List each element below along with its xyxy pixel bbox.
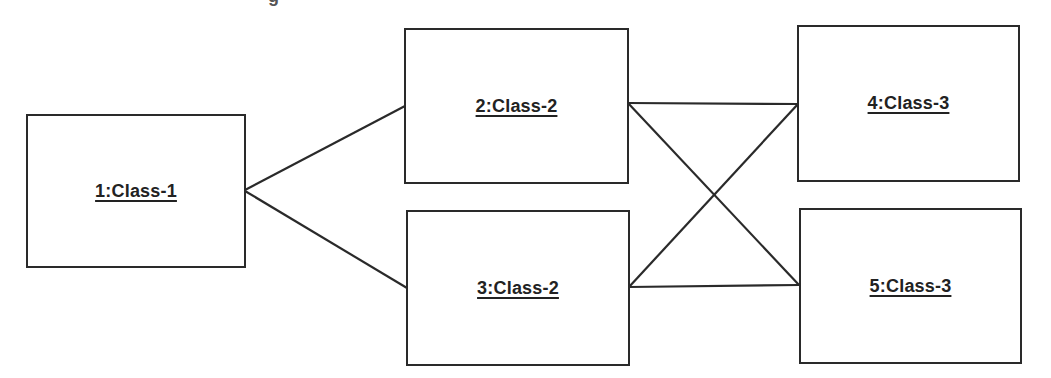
node-2-class-2: 2:Class-2 — [404, 28, 629, 184]
edge-1-to-3 — [245, 191, 407, 288]
node-4-class-3: 4:Class-3 — [797, 25, 1020, 182]
node-label: 5:Class-3 — [870, 276, 952, 297]
node-label: 3:Class-2 — [477, 278, 559, 299]
node-5-class-3: 5:Class-3 — [799, 208, 1022, 364]
node-label: 4:Class-3 — [868, 93, 950, 114]
node-1-class-1: 1:Class-1 — [26, 114, 246, 268]
node-label: 1:Class-1 — [95, 181, 177, 202]
edge-2-to-4 — [628, 103, 798, 104]
node-3-class-2: 3:Class-2 — [406, 210, 630, 366]
edge-3-to-5 — [629, 285, 799, 287]
node-label: 2:Class-2 — [476, 96, 558, 117]
edge-1-to-2 — [245, 106, 405, 190]
